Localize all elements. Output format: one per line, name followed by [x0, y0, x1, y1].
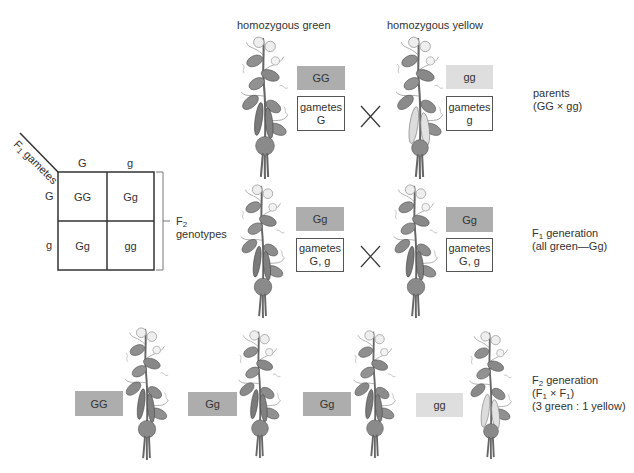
gametes-label: gametes	[448, 242, 490, 255]
green-pea-plant-icon	[234, 182, 292, 318]
f1-generation-label: F1 generation (all green—Gg)	[532, 227, 607, 253]
gametes-label: gametes	[300, 101, 342, 114]
f2-genotype-box: gg	[416, 393, 463, 417]
f2-genotypes-label: F2 genotypes	[176, 215, 227, 241]
f1-left-gametes-box: gametes G, g	[296, 238, 344, 272]
parent-right-genotype-box: gg	[446, 65, 493, 89]
punnett-cell: Gg	[58, 221, 107, 270]
green-pea-plant-icon	[349, 326, 401, 460]
green-pea-plant-icon	[234, 34, 296, 179]
f2-genotype-box: GG	[75, 391, 123, 416]
gametes-value: g	[466, 114, 472, 127]
f2-genotype-box: Gg	[303, 392, 351, 416]
yellow-pea-plant-icon	[390, 34, 450, 179]
title-homozygous-yellow: homozygous yellow	[387, 19, 483, 32]
green-pea-plant-icon	[120, 325, 174, 460]
cross-icon	[361, 246, 380, 267]
gametes-label: gametes	[448, 101, 490, 114]
punnett-col-header: g	[127, 157, 133, 170]
f2-genotypes-bracket	[156, 172, 170, 270]
parent-right-gametes-box: gametes g	[446, 96, 493, 131]
parent-left-genotype-box: GG	[297, 66, 345, 90]
punnett-col-header: G	[78, 157, 87, 170]
parents-label: parents (GG × gg)	[533, 87, 582, 113]
f2-genotype-box: Gg	[188, 392, 237, 416]
f2-generation-label: F2 generation (F1 × F1) (3 green : 1 yel…	[532, 374, 626, 413]
punnett-cell: Gg	[107, 172, 154, 221]
f1-right-gametes-box: gametes G, g	[446, 238, 493, 272]
punnett-cell: GG	[58, 172, 107, 221]
punnett-row-header: g	[46, 239, 52, 252]
yellow-pea-plant-icon	[465, 328, 517, 460]
cross-icon	[361, 106, 380, 127]
gametes-value: G	[317, 114, 326, 127]
f1-right-genotype-box: Gg	[446, 207, 493, 232]
gametes-value: G, g	[310, 255, 331, 268]
title-homozygous-green: homozygous green	[237, 19, 331, 32]
punnett-cell: gg	[107, 221, 154, 270]
gametes-value: G, g	[459, 255, 480, 268]
green-pea-plant-icon	[387, 182, 445, 318]
gametes-label: gametes	[299, 242, 341, 255]
f1-left-genotype-box: Gg	[296, 207, 344, 231]
green-pea-plant-icon	[234, 326, 286, 460]
parent-left-gametes-box: gametes G	[297, 96, 345, 131]
punnett-row-header: G	[45, 190, 54, 203]
